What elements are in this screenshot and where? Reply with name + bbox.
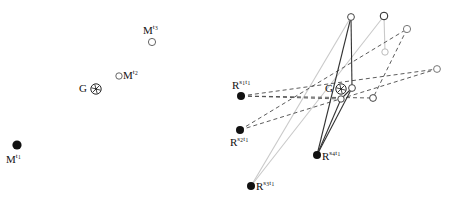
node-node-top-a[interactable]: [348, 14, 355, 21]
node-node-right[interactable]: [434, 66, 441, 73]
marker-R-s3t1[interactable]: [247, 182, 255, 190]
marker-M-t3[interactable]: [148, 38, 155, 45]
label-M-t1: Mt1: [6, 153, 21, 165]
left-panel-markers-svg: [0, 0, 227, 203]
marker-G-star-right[interactable]: [336, 84, 346, 94]
label-R-s1t1: Rs1t1: [232, 79, 250, 91]
label-R-s2t1: Rs2t1: [230, 136, 248, 148]
label-G-star: G: [79, 83, 87, 94]
marker-R-s4t1[interactable]: [313, 151, 321, 159]
edge-R-s4t1-to-node-center: [317, 88, 352, 155]
label-G-star-right: G: [325, 83, 333, 94]
right-panel-graph-svg: [227, 0, 454, 203]
node-node-mid-a[interactable]: [382, 49, 388, 55]
marker-M-t2[interactable]: [116, 73, 122, 79]
label-R-s3t1: Rs3t1: [256, 180, 274, 192]
label-M-t3: Mt3: [143, 24, 158, 36]
marker-R-s1t1[interactable]: [237, 92, 245, 100]
open-node-group: [338, 12, 441, 102]
edge-R-s4t1-to-node-top-a: [317, 17, 351, 155]
right-panel: Rs1t1Rs2t1Rs3t1Rs4t1G: [227, 0, 454, 203]
edge-node-top-b-to-node-mid-a: [384, 16, 385, 52]
node-node-center[interactable]: [349, 85, 356, 92]
labeled-marker-group: [236, 84, 346, 190]
figure-canvas: Mt1GMt2Mt3 Rs1t1Rs2t1Rs3t1Rs4t1G: [0, 0, 454, 203]
label-M-t2: Mt2: [123, 69, 138, 81]
edge-node-top-a-to-node-center: [351, 17, 352, 88]
node-node-top-b[interactable]: [380, 12, 388, 20]
solid-edge-group: [317, 17, 352, 155]
light-edge-group: [251, 16, 385, 186]
node-node-lower-a[interactable]: [338, 96, 344, 102]
node-node-lower-b[interactable]: [370, 95, 377, 102]
marker-M-t1[interactable]: [12, 140, 21, 149]
left-panel: Mt1GMt2Mt3: [0, 0, 227, 203]
marker-G-star[interactable]: [91, 84, 101, 94]
label-R-s4t1: Rs4t1: [322, 150, 340, 162]
edge-R-s3t1-to-node-top-b: [251, 16, 384, 186]
marker-R-s2t1[interactable]: [236, 126, 244, 134]
node-node-top-c[interactable]: [403, 25, 410, 32]
